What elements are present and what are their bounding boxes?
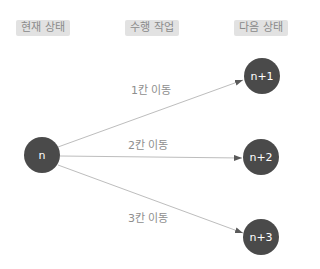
node-n: n — [24, 137, 60, 173]
edge-label-1: 1칸 이동 — [131, 84, 172, 98]
node-n-plus-3: n+3 — [243, 219, 279, 255]
edge-line-2 — [60, 156, 242, 158]
edge-label-2: 2칸 이동 — [128, 139, 169, 153]
edge-label-3: 3칸 이동 — [128, 212, 169, 226]
node-n-plus-2: n+2 — [243, 139, 279, 175]
node-n-plus-1: n+1 — [244, 58, 280, 94]
